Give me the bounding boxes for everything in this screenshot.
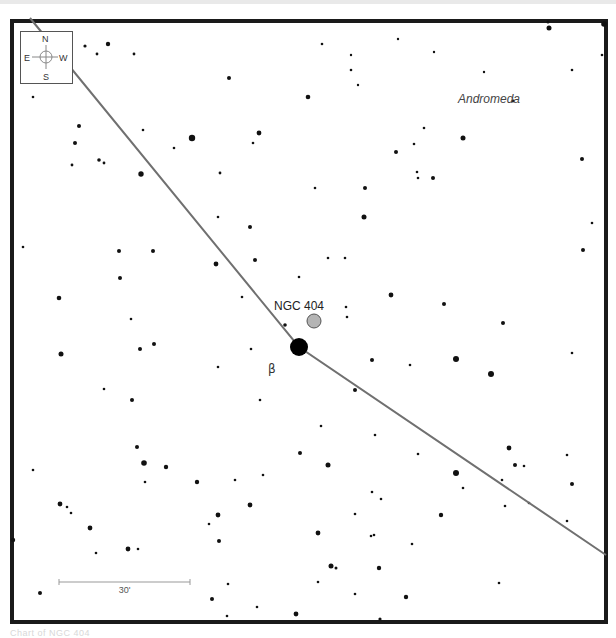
star [417,177,420,180]
star [216,513,221,518]
star [370,358,374,362]
scale-bar-label: 30' [119,585,131,595]
star [11,538,15,542]
star [118,276,122,280]
star [314,187,317,190]
star [329,564,334,569]
star [253,258,257,262]
star [234,479,237,482]
star [152,342,156,346]
star [144,481,147,484]
star [350,54,352,56]
star [357,84,359,86]
star [130,318,133,321]
star [350,69,353,72]
star [547,21,550,24]
star [601,21,607,27]
star [378,617,381,620]
ngc-404-marker[interactable] [307,314,321,328]
star [210,597,214,601]
compass-rose: N E W S [20,31,73,84]
chart-caption: Chart of NGC 404 [10,628,90,638]
star [453,356,459,362]
star [566,454,569,457]
star [248,503,253,508]
star [298,451,302,455]
star [501,479,504,482]
star [547,26,552,31]
star [151,249,155,253]
star [59,352,64,357]
star [411,543,414,546]
star [217,366,220,369]
star [256,606,259,609]
star [504,505,507,508]
star [248,225,252,229]
star [214,262,219,267]
star [217,216,220,219]
star [164,465,168,469]
compass-crosshair-icon [20,31,73,84]
star [133,53,136,56]
star [103,388,106,391]
star [404,595,408,599]
star [374,434,377,437]
star [173,147,176,150]
star [294,612,299,617]
star [601,54,604,57]
star [416,171,419,174]
star [70,512,73,515]
star [397,38,399,40]
star [580,157,584,161]
star [32,96,35,99]
star [66,506,69,509]
star [97,158,101,162]
star [431,176,435,180]
star [409,364,412,367]
star [370,535,373,538]
star [380,498,383,501]
star [317,581,320,584]
star [138,347,142,351]
star [353,388,357,392]
star [137,548,140,551]
star [22,246,25,249]
star [571,69,574,72]
star [417,453,420,456]
star [138,171,143,176]
star [335,567,338,570]
star [103,162,106,165]
star [362,215,367,220]
star [250,348,253,351]
beta-andromedae-star[interactable] [290,338,308,356]
star [141,460,147,466]
star [135,445,139,449]
star [262,474,265,477]
star [371,491,374,494]
star [507,446,512,451]
star [354,513,357,516]
star [413,143,416,146]
star [363,186,367,190]
star [377,566,381,570]
star [442,302,446,306]
star [32,469,35,472]
star [283,323,287,327]
star-chart: NGC 404 β Andromeda 30' [0,0,616,638]
star [252,142,255,145]
star [591,222,594,225]
star [189,135,195,141]
star [394,150,398,154]
star [320,425,323,428]
star [117,249,121,253]
star [326,463,331,468]
star [259,399,262,402]
star [142,129,145,132]
star [83,44,86,47]
star [77,124,81,128]
star [483,71,485,73]
star [327,257,330,260]
beta-label: β [268,362,276,376]
star [219,172,222,175]
star [95,552,98,555]
